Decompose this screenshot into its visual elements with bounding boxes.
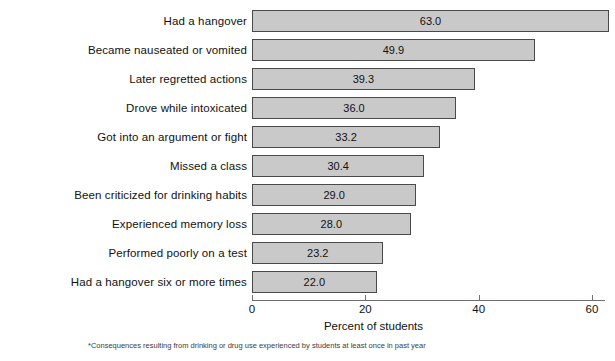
x-axis-tick-label: 0 [249, 303, 255, 315]
bar-value-label: 63.0 [420, 15, 441, 27]
category-label: Been criticized for drinking habits [74, 189, 247, 201]
x-axis-tick [479, 295, 480, 301]
chart-row: Experienced memory loss28.0 [0, 213, 615, 235]
bar-value-label: 39.3 [353, 73, 374, 85]
chart-row: Became nauseated or vomited49.9 [0, 39, 615, 61]
x-axis-tick-label: 40 [472, 303, 485, 315]
chart-row: Performed poorly on a test23.2 [0, 242, 615, 264]
x-axis-tick [365, 295, 366, 301]
x-axis-tick-label: 60 [586, 303, 599, 315]
chart-row: Drove while intoxicated36.0 [0, 97, 615, 119]
footnote: *Consequences resulting from drinking or… [88, 341, 426, 350]
bar-value-label: 36.0 [343, 102, 364, 114]
chart-row: Later regretted actions39.3 [0, 68, 615, 90]
category-label: Had a hangover six or more times [71, 276, 247, 288]
bar-value-label: 28.0 [321, 218, 342, 230]
category-label: Experienced memory loss [112, 218, 247, 230]
x-axis-line [252, 300, 605, 301]
category-label: Had a hangover [164, 15, 247, 27]
chart-row: Missed a class30.4 [0, 155, 615, 177]
category-label: Got into an argument or fight [97, 131, 247, 143]
chart-page: Had a hangover63.0Became nauseated or vo… [0, 0, 615, 361]
category-label: Missed a class [170, 160, 247, 172]
x-axis-title-text: Percent of students [324, 320, 423, 332]
category-label: Became nauseated or vomited [88, 44, 247, 56]
bar-value-label: 22.0 [304, 276, 325, 288]
chart-row: Got into an argument or fight33.2 [0, 126, 615, 148]
x-axis-tick [592, 295, 593, 301]
x-axis-tick [252, 295, 253, 301]
chart-row: Been criticized for drinking habits29.0 [0, 184, 615, 206]
bar-chart-plot-area: Had a hangover63.0Became nauseated or vo… [0, 0, 615, 310]
category-label: Drove while intoxicated [126, 102, 247, 114]
x-axis-title: Percent of students [0, 320, 615, 332]
bar-value-label: 29.0 [323, 189, 344, 201]
x-axis-tick-label: 20 [359, 303, 372, 315]
bar-value-label: 33.2 [335, 131, 356, 143]
bar-value-label: 49.9 [383, 44, 404, 56]
chart-row: Had a hangover six or more times22.0 [0, 271, 615, 293]
category-label: Performed poorly on a test [108, 247, 247, 259]
bar-value-label: 30.4 [327, 160, 348, 172]
bar-value-label: 23.2 [307, 247, 328, 259]
category-label: Later regretted actions [129, 73, 247, 85]
chart-row: Had a hangover63.0 [0, 10, 615, 32]
